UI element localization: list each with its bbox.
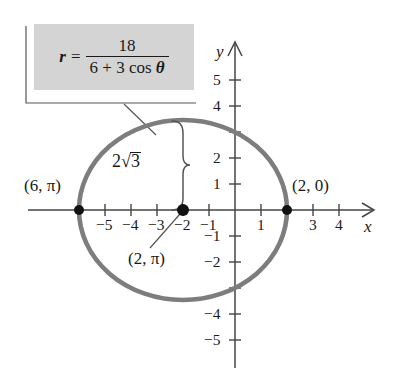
radical-overbar — [130, 152, 141, 154]
label-vertex-2-0-text: (2, 0) — [292, 176, 329, 195]
equation-box: r = 18 6 + 3 cos θ — [34, 24, 194, 90]
x-tick-label-1: 1 — [257, 216, 265, 234]
label-focus-2-pi: (2, π) — [128, 249, 165, 269]
radical-sign: √ — [121, 151, 131, 172]
denominator-prefix: 6 + 3 cos — [90, 58, 156, 77]
x-axis-label: x — [364, 217, 372, 237]
y-tick-label--2: −2 — [204, 253, 221, 271]
y-tick-label-5: 5 — [213, 71, 221, 89]
y-tick-label-4: 4 — [213, 97, 221, 115]
point-focus-2-pi — [177, 204, 189, 216]
y-tick-label--1: −1 — [204, 227, 221, 245]
semi-minor-radicand: 3 — [131, 151, 140, 171]
label-vertex-6-pi-text: (6, π) — [24, 176, 61, 195]
x-tick-label--4: −4 — [122, 216, 139, 234]
label-vertex-6-pi: (6, π) — [24, 176, 61, 196]
y-tick-label-1: 1 — [213, 175, 221, 193]
equation-equals-sign: = — [71, 47, 81, 67]
y-tick-label-2: 2 — [213, 149, 221, 167]
point-vertex-6-pi — [74, 205, 84, 215]
y-axis-label: y — [216, 42, 224, 62]
x-tick-label-4: 4 — [335, 216, 343, 234]
y-tick-label--4: −4 — [204, 305, 221, 323]
equation: r = 18 6 + 3 cos θ — [59, 37, 168, 77]
measurement-brace — [172, 121, 190, 210]
semi-minor-coefficient: 2 — [112, 151, 121, 171]
x-tick-label--2: −2 — [174, 216, 191, 234]
x-tick-label--3: −3 — [148, 216, 165, 234]
label-focus-2-pi-text: (2, π) — [128, 249, 165, 268]
equation-numerator: 18 — [113, 37, 142, 56]
label-semi-minor-2sqrt3: 2√3 — [112, 151, 140, 172]
x-tick-label-3: 3 — [309, 216, 317, 234]
equation-lhs: r — [59, 47, 66, 67]
label-vertex-2-0: (2, 0) — [292, 176, 329, 196]
theta-symbol: θ — [156, 58, 165, 77]
point-vertex-2-0 — [282, 205, 292, 215]
equation-denominator: 6 + 3 cos θ — [86, 57, 169, 77]
equation-fraction: 18 6 + 3 cos θ — [86, 37, 169, 77]
x-tick-label--5: −5 — [96, 216, 113, 234]
y-tick-label--5: −5 — [204, 331, 221, 349]
